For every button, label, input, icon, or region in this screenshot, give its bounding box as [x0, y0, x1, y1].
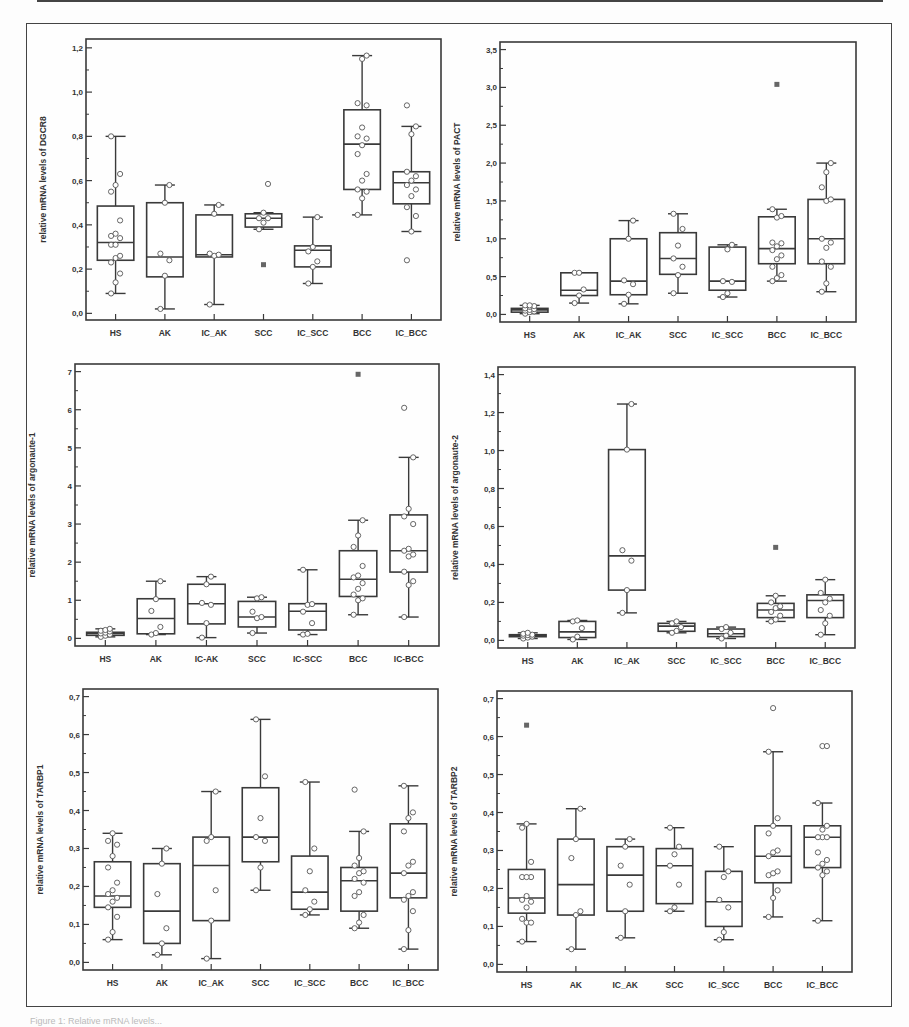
data-point [823, 621, 828, 626]
box-ic-scc [295, 215, 331, 287]
data-point [355, 212, 360, 217]
data-point [676, 844, 681, 849]
data-point [253, 717, 258, 722]
data-point [779, 253, 784, 258]
box-ic-scc [292, 779, 328, 917]
data-point [672, 852, 677, 857]
data-point [364, 171, 369, 176]
data-point [315, 215, 320, 220]
box-bcc [757, 545, 794, 624]
y-tick-label: 0,4 [69, 807, 81, 816]
box-ic-scc [708, 625, 745, 642]
data-point [770, 240, 775, 245]
data-point [364, 136, 369, 141]
outlier-marker [773, 545, 778, 550]
data-point [110, 929, 115, 934]
box-ic-bcc [390, 783, 426, 951]
data-point [672, 905, 677, 910]
x-category-label: IC-AK [195, 654, 219, 664]
x-category-label: IC_SCC [712, 330, 743, 340]
data-point [356, 586, 361, 591]
data-point [355, 101, 360, 106]
data-point [717, 897, 722, 902]
data-point [820, 873, 825, 878]
data-point [820, 827, 825, 832]
data-point [766, 914, 771, 919]
data-point [409, 193, 414, 198]
data-point [361, 869, 366, 874]
data-point [413, 213, 418, 218]
data-point [352, 893, 357, 898]
x-category-label: IC_SCC [708, 980, 739, 990]
x-category-label: IC_AK [201, 328, 227, 338]
data-point [824, 245, 829, 250]
data-point [355, 187, 360, 192]
data-point [258, 865, 263, 870]
data-point [110, 831, 115, 836]
y-axis-title: relative mRNA levels of argonaute-2 [450, 435, 460, 580]
y-axis-title: relative mRNA levels of argonaute-1 [27, 432, 37, 577]
y-tick-label: 0,4 [72, 221, 84, 230]
data-point [815, 865, 820, 870]
data-point [581, 287, 586, 292]
data-point [674, 628, 679, 633]
y-tick-label: 2,5 [486, 121, 498, 130]
data-point [261, 220, 266, 225]
figure-caption: Figure 1: Relative mRNA levels... [30, 1016, 162, 1026]
data-point [671, 291, 676, 296]
data-point [309, 621, 314, 626]
data-point [771, 823, 776, 828]
x-category-label: BCC [764, 980, 782, 990]
x-category-label: SCC [248, 654, 266, 664]
data-point [351, 592, 356, 597]
y-tick-label: 0,1 [483, 922, 495, 931]
data-point [208, 602, 213, 607]
x-category-label: SCC [666, 980, 684, 990]
data-point [355, 151, 360, 156]
data-point [823, 577, 828, 582]
box-ic-ak [193, 789, 229, 961]
data-point [355, 134, 360, 139]
x-category-label: IC_BCC [809, 656, 841, 666]
data-point [815, 800, 820, 805]
data-point [306, 249, 311, 254]
x-category-label: IC_SCC [710, 656, 741, 666]
data-point [250, 609, 255, 614]
data-point [676, 882, 681, 887]
x-category-label: BCC [353, 328, 371, 338]
boxplot-tarbp2: 0,00,10,20,30,40,50,60,7relative mRNA le… [437, 685, 858, 998]
data-point [352, 926, 357, 931]
data-point [404, 103, 409, 108]
x-category-label: BCC [349, 654, 367, 664]
data-point [262, 838, 267, 843]
data-point [158, 579, 163, 584]
data-point [113, 231, 118, 236]
x-category-label: SCC [669, 330, 687, 340]
y-tick-label: 0,4 [483, 809, 495, 818]
data-point [723, 625, 728, 630]
data-point [766, 749, 771, 754]
data-point [208, 574, 213, 579]
data-point [678, 625, 683, 630]
boxplot-argonaute-1: 01234567relative mRNA levels of argonaut… [15, 358, 445, 672]
data-point [629, 401, 634, 406]
data-point [356, 573, 361, 578]
data-point [216, 202, 221, 207]
y-tick-label: 0,5 [69, 769, 81, 778]
data-point [199, 635, 204, 640]
data-point [315, 259, 320, 264]
data-point [726, 869, 731, 874]
box-bcc [755, 705, 791, 919]
data-point [108, 189, 113, 194]
data-point [256, 216, 261, 221]
data-point [158, 251, 163, 256]
data-point [728, 630, 733, 635]
data-point [306, 281, 311, 286]
box-ak [558, 806, 594, 952]
outlier-marker [524, 723, 529, 728]
data-point [406, 546, 411, 551]
data-point [626, 292, 631, 297]
data-point [105, 838, 110, 843]
x-category-label: HS [110, 328, 122, 338]
data-point [527, 303, 532, 308]
